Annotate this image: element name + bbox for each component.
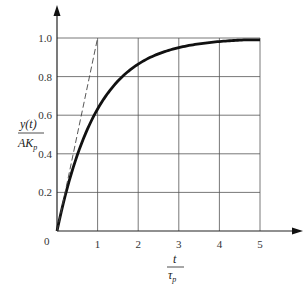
x-tick-label: 5 <box>257 238 263 250</box>
y-tick-label: 0.8 <box>38 71 52 83</box>
grid-lines <box>57 38 260 231</box>
y-axis-label: y(t) AKp <box>17 117 44 152</box>
y-axis-arrow-icon <box>54 5 61 16</box>
tangent-line <box>57 38 98 231</box>
step-response-chart: 0123450.20.40.60.81.0 y(t) AKp t τp <box>0 0 307 287</box>
response-curve <box>57 40 260 231</box>
y-label-denominator: AKp <box>17 136 37 152</box>
x-tick-label: 3 <box>176 238 182 250</box>
origin-label: 0 <box>44 235 50 247</box>
x-label-numerator: t <box>173 252 177 266</box>
y-label-numerator: y(t) <box>19 117 37 131</box>
y-tick-label: 0.2 <box>38 186 52 198</box>
x-axis-arrow-icon <box>292 228 303 235</box>
x-tick-label: 4 <box>217 238 223 250</box>
x-label-denominator: τp <box>168 268 176 284</box>
x-tick-label: 2 <box>135 238 141 250</box>
y-tick-label: 0.4 <box>38 148 52 160</box>
y-tick-label: 0.6 <box>38 109 52 121</box>
x-axis-label: t τp <box>167 252 184 284</box>
tick-labels: 0123450.20.40.60.81.0 <box>38 32 263 250</box>
y-tick-label: 1.0 <box>38 32 52 44</box>
x-tick-label: 1 <box>95 238 101 250</box>
data-series <box>57 38 260 231</box>
